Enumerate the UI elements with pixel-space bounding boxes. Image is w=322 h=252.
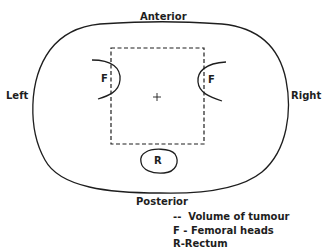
legend-text: Rectum [185, 238, 228, 249]
label-posterior: Posterior [136, 197, 188, 207]
legend-sep: - [183, 225, 187, 236]
legend-key: -- [173, 211, 181, 222]
body-outline [33, 22, 289, 193]
legend-item-rectum: R-Rectum [173, 237, 290, 251]
label-right: Right [291, 91, 321, 101]
legend-text: Femoral heads [191, 225, 274, 236]
legend-text: Volume of tumour [188, 211, 289, 222]
tumour-volume-rect [111, 48, 204, 144]
legend: -- Volume of tumour F - Femoral heads R-… [173, 210, 290, 251]
label-femoral-head-left: F [101, 74, 108, 84]
label-left: Left [6, 91, 28, 101]
legend-item-femoral-heads: F - Femoral heads [173, 224, 290, 238]
label-femoral-head-right: F [208, 75, 215, 85]
label-rectum: R [154, 156, 162, 166]
legend-key: R [173, 238, 181, 249]
isocentre-cross-icon [153, 93, 161, 101]
legend-item-tumour-volume: -- Volume of tumour [173, 210, 290, 224]
legend-key: F [173, 225, 180, 236]
label-anterior: Anterior [140, 12, 187, 22]
